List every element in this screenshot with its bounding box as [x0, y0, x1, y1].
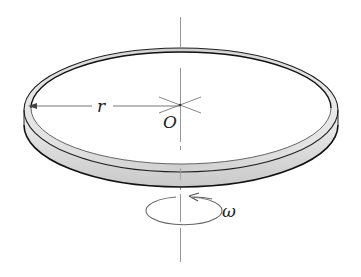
center-point-marker: [159, 97, 201, 113]
radius-label: r: [97, 96, 106, 116]
ring-top-surface: [24, 48, 338, 172]
ring: [24, 48, 338, 187]
center-label: O: [163, 112, 177, 132]
ring-inner-edge-back: [31, 52, 331, 108]
rotation-arrow-icon: [146, 193, 222, 225]
ring-diagram: r O ω: [0, 0, 361, 277]
angular-velocity-label: ω: [222, 201, 236, 221]
